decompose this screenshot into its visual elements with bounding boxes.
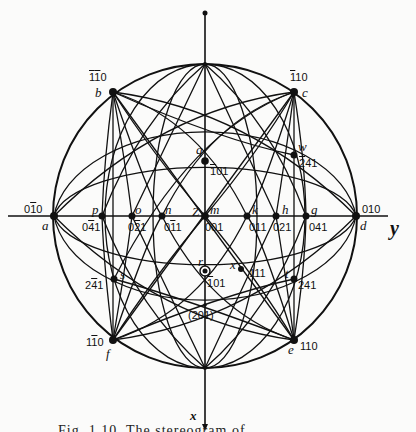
label-e-index: 110 [300,341,318,352]
figure-caption: Fig. 1.10. The stereogram of... [0,424,416,432]
label-x-index: 111 [249,268,266,279]
label-s: s [120,268,125,281]
zone-line [54,92,294,216]
label-q: q [196,143,203,156]
label-e: e [288,343,294,356]
label-h: h [282,203,289,216]
label-t-index: 241 [298,280,316,291]
label-x: x [230,258,236,271]
label-o: o [135,203,142,216]
label-f: f [106,347,110,360]
label-m-index: 001 [205,222,223,233]
zone-line [113,92,356,216]
label-o-index: 021 [128,222,146,233]
label-201: (201) [188,310,214,321]
label-w: w [298,140,307,153]
label-d-index: 010 [362,204,380,215]
label-n-index: 011 [164,222,182,233]
label-p: p [92,203,99,216]
label-t: t [285,267,289,280]
label-n: n [165,203,172,216]
figure-caption-text: Fig. 1.10. The stereogram of... [0,424,416,432]
zone-line [114,92,294,279]
label-a: a [42,219,49,232]
label-w-index: 241 [299,158,317,169]
label-g-index: 041 [309,222,327,233]
pole-r-dot [203,269,208,274]
label-a-index: 010 [24,204,42,215]
label-k: k [252,203,258,216]
label-q-index: 101 [210,166,228,177]
label-g: g [311,203,318,216]
label-h-index: 021 [273,222,291,233]
x-axis-label: x [190,409,197,422]
label-k-index: 011 [249,222,267,233]
label-p-index: 041 [82,222,100,233]
label-c: c [302,86,308,99]
axis-top-dot [203,11,208,16]
label-z: Z [192,205,199,218]
label-r-index: 101 [207,278,225,289]
label-c-index: 110 [290,72,308,83]
label-f-index: 110 [86,337,104,348]
label-m: m [210,203,219,216]
label-s-index: 241 [85,280,103,291]
label-r: r [198,255,203,268]
label-d: d [360,219,367,232]
stereogram-svg [0,0,416,432]
stereogram-figure: 110 b 110 c 010 a 010 d y p 041 o 021 n … [0,0,416,432]
label-b-index: 110 [89,72,107,83]
zone-line [113,216,356,340]
y-axis-label: y [390,218,399,238]
label-b: b [95,86,102,99]
